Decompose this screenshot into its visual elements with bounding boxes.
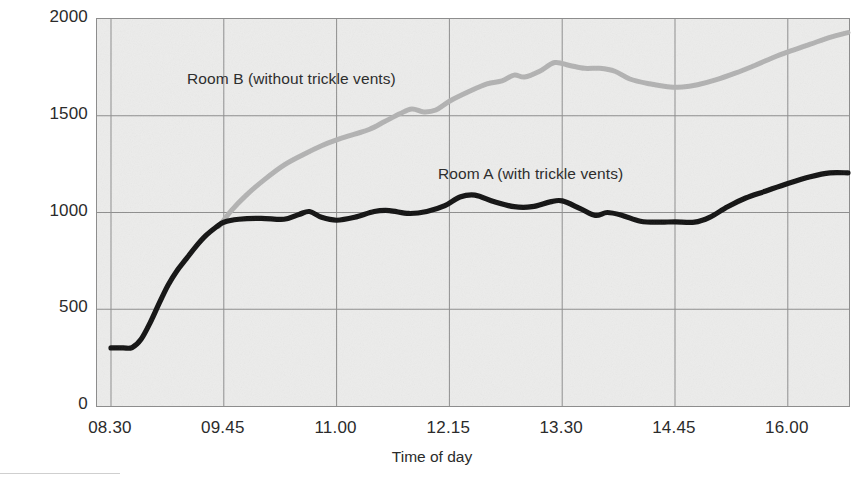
footer-rule — [0, 473, 120, 474]
y-tick-label: 500 — [8, 297, 88, 317]
y-tick-label: 0 — [8, 394, 88, 414]
y-tick-label: 1000 — [8, 201, 88, 221]
x-tick-label: 11.00 — [286, 418, 386, 438]
x-tick-label: 16.00 — [737, 418, 837, 438]
y-tick-label: 2000 — [8, 7, 88, 27]
series-path-room-a — [111, 173, 848, 349]
series-label-room-b: Room B (without trickle vents) — [187, 70, 396, 88]
x-tick-label: 08.30 — [60, 418, 160, 438]
x-tick-label: 12.15 — [398, 418, 498, 438]
series-label-room-a: Room A (with trickle vents) — [438, 165, 623, 183]
y-tick-label: 1500 — [8, 104, 88, 124]
x-tick-label: 14.45 — [624, 418, 724, 438]
x-axis-title: Time of day — [0, 448, 864, 466]
chart-figure: Carbon dioxide (ppm) Room B (without tri… — [0, 0, 864, 482]
x-tick-label: 13.30 — [511, 418, 611, 438]
x-tick-label: 09.45 — [173, 418, 273, 438]
